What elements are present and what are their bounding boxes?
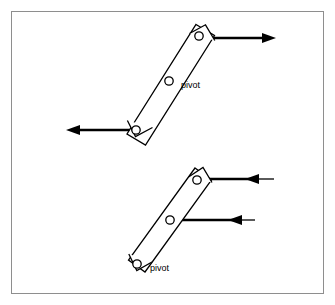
upper-top-force-arrow	[204, 33, 276, 43]
upper-pivot-label: pivot	[181, 80, 201, 90]
upper-bar-bottom-hole	[132, 126, 140, 134]
lower-pivot-label: pivot	[150, 263, 170, 273]
upper-assembly: pivot	[66, 25, 276, 146]
lower-top-force-arrow	[202, 174, 274, 184]
lower-bar-top-hole	[193, 176, 201, 184]
lower-assembly: pivot	[129, 168, 275, 274]
upper-bottom-force-arrowhead	[66, 125, 80, 135]
upper-bar-pivot-hole	[165, 77, 173, 85]
lower-middle-force-arrowhead	[228, 215, 242, 225]
lower-bar-pivot-hole	[133, 260, 141, 268]
diagram-canvas: pivot p	[0, 0, 335, 305]
diagram-svg: pivot p	[0, 0, 335, 305]
upper-bar-top-hole	[195, 32, 203, 40]
upper-top-force-arrowhead	[262, 33, 276, 43]
lower-top-force-arrowhead	[245, 174, 259, 184]
lower-bar-middle-hole	[166, 216, 174, 224]
